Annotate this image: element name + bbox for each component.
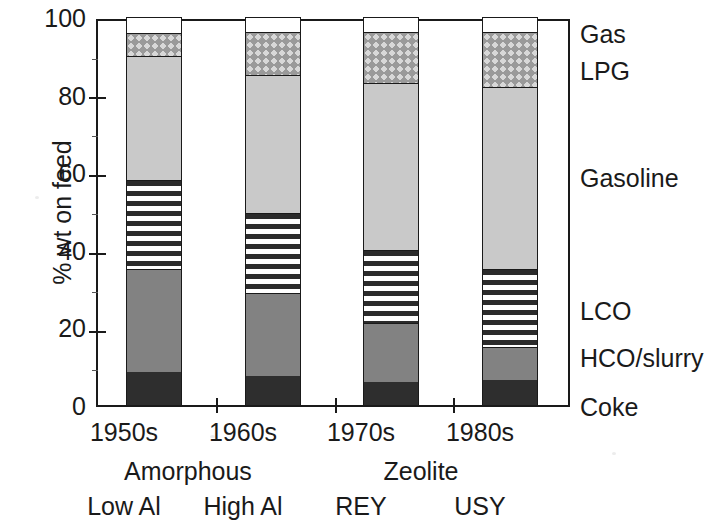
bar-1950s-segment-gasoline xyxy=(127,56,181,180)
sub-label-usy: USY xyxy=(420,492,540,521)
bar-1970s-segment-gasoline xyxy=(364,83,418,250)
series-label-lpg: LPG xyxy=(580,57,630,86)
bar-1960s-segment-coke xyxy=(246,376,300,405)
y-tick-20 xyxy=(89,331,98,333)
bar-1970s-segment-gas xyxy=(364,17,418,32)
group-label-zeolite: Zeolite xyxy=(361,457,481,486)
sub-label-high-al: High Al xyxy=(183,492,303,521)
y-tick-10 xyxy=(92,370,98,371)
y-tick-80 xyxy=(89,97,98,99)
scan-speckle xyxy=(612,452,616,455)
bar-1980s-segment-coke xyxy=(483,380,537,405)
y-tick-label-40: 40 xyxy=(14,239,86,264)
bar-1950s-segment-gas xyxy=(127,17,181,33)
bar-1960s-segment-gasoline xyxy=(246,75,300,213)
bar-1960s-segment-hco xyxy=(246,293,300,376)
y-tick-60-inner xyxy=(98,175,106,177)
bar-1960s-segment-lco xyxy=(246,213,300,293)
x-tick-3 xyxy=(453,405,455,413)
y-tick-70 xyxy=(92,136,98,137)
y-tick-40-inner xyxy=(98,253,106,255)
x-tick-3-inner xyxy=(453,398,455,405)
series-label-coke: Coke xyxy=(580,393,638,422)
x-tick-label-1980s: 1980s xyxy=(420,418,540,447)
scan-speckle xyxy=(35,196,39,199)
x-tick-1 xyxy=(216,405,218,413)
bar-1950s-segment-hco xyxy=(127,269,181,372)
x-tick-label-1950s: 1950s xyxy=(64,418,184,447)
y-tick-40 xyxy=(89,253,98,255)
x-tick-2-inner xyxy=(335,398,337,405)
x-tick-label-1970s: 1970s xyxy=(301,418,421,447)
bar-1950s-segment-coke xyxy=(127,372,181,405)
sub-label-low-al: Low Al xyxy=(64,492,184,521)
bar-1970s-segment-lco xyxy=(364,250,418,323)
bar-1970s-segment-coke xyxy=(364,382,418,405)
y-tick-label-100: 100 xyxy=(14,6,86,31)
bar-1970s-segment-lpg xyxy=(364,32,418,83)
bar-1980s-segment-lpg xyxy=(483,32,537,87)
bar-1960s-segment-gas xyxy=(246,17,300,32)
series-label-hco: HCO/slurry xyxy=(580,344,704,373)
group-label-amorphous: Amorphous xyxy=(124,457,244,486)
bar-1980s-segment-lco xyxy=(483,269,537,347)
y-tick-50 xyxy=(92,214,98,215)
y-tick-label-60: 60 xyxy=(14,161,86,186)
y-tick-90 xyxy=(92,59,98,60)
bar-1980s-segment-gas xyxy=(483,17,537,32)
series-label-gasoline: Gasoline xyxy=(580,164,679,193)
bar-1950s[interactable] xyxy=(126,17,182,405)
x-tick-1-inner xyxy=(216,398,218,405)
bar-1980s-segment-hco xyxy=(483,347,537,380)
bar-1950s-segment-lco xyxy=(127,180,181,269)
bar-1980s[interactable] xyxy=(482,17,538,405)
plot-area xyxy=(96,19,570,407)
bar-1970s[interactable] xyxy=(363,17,419,405)
x-tick-label-1960s: 1960s xyxy=(183,418,303,447)
bar-1970s-segment-hco xyxy=(364,323,418,382)
x-tick-2 xyxy=(335,405,337,413)
y-tick-label-80: 80 xyxy=(14,84,86,109)
y-tick-60 xyxy=(89,175,98,177)
sub-label-rey: REY xyxy=(301,492,421,521)
y-tick-20-inner xyxy=(98,331,106,333)
y-tick-label-0: 0 xyxy=(14,394,86,419)
bar-1960s[interactable] xyxy=(245,17,301,405)
bar-1960s-segment-lpg xyxy=(246,32,300,75)
y-tick-30 xyxy=(92,292,98,293)
bar-1980s-segment-gasoline xyxy=(483,87,537,269)
bar-1950s-segment-lpg xyxy=(127,33,181,56)
series-label-lco: LCO xyxy=(580,297,631,326)
y-tick-80-inner xyxy=(98,97,106,99)
series-label-gas: Gas xyxy=(580,20,626,49)
scan-speckle xyxy=(210,435,215,438)
y-tick-label-20: 20 xyxy=(14,316,86,341)
